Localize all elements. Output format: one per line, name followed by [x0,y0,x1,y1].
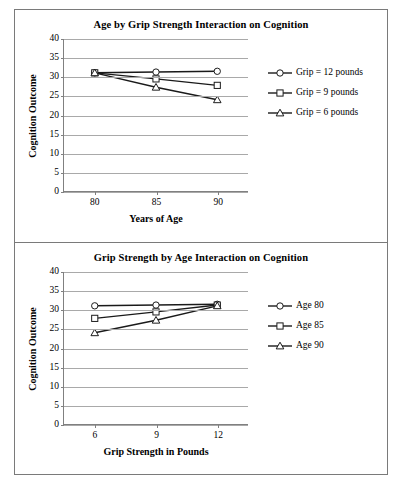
y-axis-tick [61,310,64,311]
gridline [64,368,248,369]
legend-item[interactable]: Age 80 [267,296,324,316]
gridline [64,310,248,311]
y-axis-tick-label: 20 [50,344,60,354]
legend-item[interactable]: Age 90 [267,336,324,356]
x-axis-tick [95,191,96,195]
y-axis-tick [61,387,64,388]
y-axis-tick-label: 30 [50,306,60,316]
gridline [64,406,248,407]
y-axis-tick [61,135,64,136]
gridline [64,173,248,174]
y-axis-tick [61,272,64,273]
plot-area: Years of Age 0510152025303540808590 [63,39,248,192]
figure-container: Age by Grip Strength Interaction on Cogn… [14,9,388,475]
data-point-marker-circle [153,69,159,75]
x-axis-tick-label: 90 [213,198,223,208]
legend-item-label: Age 90 [296,341,324,351]
legend-marker-square [267,319,293,333]
legend-marker-triangle [267,106,293,120]
data-point-marker-circle [92,303,98,309]
legend-marker-triangle [267,339,293,353]
y-axis-tick [61,368,64,369]
x-axis-tick-label: 85 [152,198,162,208]
legend-item-label: Age 85 [296,321,324,331]
data-point-marker-circle [277,303,283,309]
x-axis-tick [218,191,219,195]
legend-item-label: Age 80 [296,301,324,311]
y-axis-tick-label: 40 [50,34,60,44]
legend-item[interactable]: Grip = 12 pounds [267,63,363,83]
y-axis-tick [61,77,64,78]
x-axis-tick [218,424,219,428]
chart-title: Age by Grip Strength Interaction on Cogn… [15,19,387,30]
plot-area: Grip Strength in Pounds 0510152025303540… [63,272,248,425]
y-axis-tick [61,406,64,407]
y-axis-tick-label: 35 [50,53,60,63]
legend-item[interactable]: Age 85 [267,316,324,336]
x-axis-tick-label: 9 [154,431,159,441]
y-axis-tick [61,96,64,97]
y-axis-tick-label: 25 [50,92,60,102]
y-axis-tick [61,173,64,174]
y-axis-tick [61,329,64,330]
y-axis-tick [61,349,64,350]
gridline [64,291,248,292]
data-point-marker-circle [153,302,159,308]
y-axis-tick-label: 25 [50,325,60,335]
chart-panel-bottom: Grip Strength by Age Interaction on Cogn… [15,242,387,474]
chart-title: Grip Strength by Age Interaction on Cogn… [15,252,387,263]
data-point-marker-circle [277,70,283,76]
gridline [64,387,248,388]
gridline [64,96,248,97]
y-axis-tick [61,192,64,193]
x-axis-tick [95,424,96,428]
legend-marker-circle [267,299,293,313]
legend-item[interactable]: Grip = 9 pounds [267,83,363,103]
y-axis-tick [61,116,64,117]
x-axis-title: Grip Strength in Pounds [64,446,248,457]
data-point-marker-square [277,323,283,329]
y-axis-tick-label: 5 [54,401,59,411]
y-axis-tick-label: 15 [50,130,60,140]
legend-marker-square [267,86,293,100]
gridline [64,39,248,40]
x-axis-tick [157,191,158,195]
y-axis-title: Cognition Outcome [27,307,38,391]
legend-marker-circle [267,66,293,80]
chart-panel-top: Age by Grip Strength Interaction on Cogn… [15,10,387,242]
data-point-marker-square [92,315,98,321]
data-point-marker-square [277,90,283,96]
x-axis-tick-label: 12 [213,431,223,441]
y-axis-tick-label: 35 [50,286,60,296]
y-axis-title: Cognition Outcome [27,74,38,158]
y-axis-tick-label: 5 [54,168,59,178]
y-axis-tick [61,39,64,40]
y-axis-tick-label: 0 [54,187,59,197]
y-axis-tick-label: 40 [50,267,60,277]
gridline [64,329,248,330]
y-axis-tick [61,425,64,426]
y-axis-tick-label: 10 [50,149,60,159]
gridline [64,77,248,78]
gridline [64,349,248,350]
y-axis-tick-label: 0 [54,420,59,430]
x-axis-tick-label: 80 [90,198,100,208]
gridline [64,154,248,155]
y-axis-tick-label: 15 [50,363,60,373]
y-axis-tick-label: 20 [50,111,60,121]
y-axis-tick [61,291,64,292]
data-point-marker-square [214,82,220,88]
legend-item[interactable]: Grip = 6 pounds [267,103,363,123]
y-axis-tick [61,154,64,155]
gridline [64,135,248,136]
x-axis-title: Years of Age [64,213,248,224]
y-axis-tick-label: 30 [50,73,60,83]
legend-item-label: Grip = 9 pounds [296,88,358,98]
data-point-marker-circle [214,68,220,74]
gridline [64,272,248,273]
legend: Grip = 12 poundsGrip = 9 poundsGrip = 6 … [267,63,363,123]
legend: Age 80Age 85Age 90 [267,296,324,356]
x-axis-tick [157,424,158,428]
legend-item-label: Grip = 12 pounds [296,68,363,78]
gridline [64,116,248,117]
